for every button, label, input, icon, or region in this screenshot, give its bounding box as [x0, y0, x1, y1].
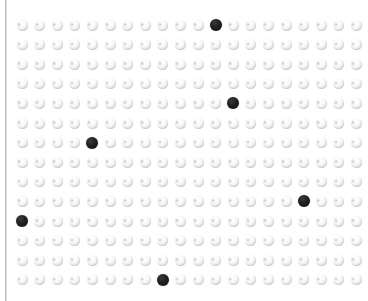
- light-dot-marker[interactable]: [228, 176, 239, 187]
- light-dot-marker[interactable]: [193, 274, 204, 285]
- light-dot-marker[interactable]: [122, 59, 133, 70]
- light-dot-marker[interactable]: [210, 157, 221, 168]
- light-dot-marker[interactable]: [228, 20, 239, 31]
- light-dot-marker[interactable]: [351, 39, 362, 50]
- light-dot-marker[interactable]: [245, 118, 256, 129]
- light-dot-marker[interactable]: [52, 157, 63, 168]
- light-dot-marker[interactable]: [17, 39, 28, 50]
- light-dot-marker[interactable]: [351, 274, 362, 285]
- light-dot-marker[interactable]: [69, 78, 80, 89]
- light-dot-marker[interactable]: [351, 176, 362, 187]
- light-dot-marker[interactable]: [175, 255, 186, 266]
- light-dot-marker[interactable]: [122, 137, 133, 148]
- light-dot-marker[interactable]: [228, 196, 239, 207]
- light-dot-marker[interactable]: [333, 59, 344, 70]
- light-dot-marker[interactable]: [298, 137, 309, 148]
- light-dot-marker[interactable]: [122, 118, 133, 129]
- light-dot-marker[interactable]: [263, 196, 274, 207]
- light-dot-marker[interactable]: [34, 216, 45, 227]
- light-dot-marker[interactable]: [333, 118, 344, 129]
- light-dot-marker[interactable]: [17, 235, 28, 246]
- light-dot-marker[interactable]: [193, 235, 204, 246]
- light-dot-marker[interactable]: [105, 39, 116, 50]
- light-dot-marker[interactable]: [316, 20, 327, 31]
- light-dot-marker[interactable]: [210, 78, 221, 89]
- light-dot-marker[interactable]: [175, 20, 186, 31]
- light-dot-marker[interactable]: [193, 78, 204, 89]
- light-dot-marker[interactable]: [17, 59, 28, 70]
- light-dot-marker[interactable]: [210, 216, 221, 227]
- light-dot-marker[interactable]: [52, 176, 63, 187]
- light-dot-marker[interactable]: [333, 216, 344, 227]
- light-dot-marker[interactable]: [175, 157, 186, 168]
- light-dot-marker[interactable]: [281, 59, 292, 70]
- light-dot-marker[interactable]: [316, 255, 327, 266]
- light-dot-marker[interactable]: [263, 235, 274, 246]
- light-dot-marker[interactable]: [228, 118, 239, 129]
- light-dot-marker[interactable]: [263, 98, 274, 109]
- light-dot-marker[interactable]: [87, 98, 98, 109]
- light-dot-marker[interactable]: [34, 157, 45, 168]
- light-dot-marker[interactable]: [69, 39, 80, 50]
- light-dot-marker[interactable]: [157, 216, 168, 227]
- light-dot-marker[interactable]: [17, 157, 28, 168]
- light-dot-marker[interactable]: [175, 98, 186, 109]
- light-dot-marker[interactable]: [333, 255, 344, 266]
- light-dot-marker[interactable]: [122, 196, 133, 207]
- light-dot-marker[interactable]: [245, 274, 256, 285]
- light-dot-marker[interactable]: [17, 98, 28, 109]
- light-dot-marker[interactable]: [17, 137, 28, 148]
- dark-dot-marker[interactable]: [210, 19, 222, 31]
- light-dot-marker[interactable]: [210, 196, 221, 207]
- light-dot-marker[interactable]: [316, 137, 327, 148]
- light-dot-marker[interactable]: [175, 196, 186, 207]
- light-dot-marker[interactable]: [87, 216, 98, 227]
- light-dot-marker[interactable]: [333, 20, 344, 31]
- light-dot-marker[interactable]: [175, 118, 186, 129]
- light-dot-marker[interactable]: [105, 137, 116, 148]
- light-dot-marker[interactable]: [157, 78, 168, 89]
- light-dot-marker[interactable]: [210, 59, 221, 70]
- dark-dot-marker[interactable]: [16, 215, 28, 227]
- light-dot-marker[interactable]: [52, 78, 63, 89]
- light-dot-marker[interactable]: [351, 59, 362, 70]
- light-dot-marker[interactable]: [34, 255, 45, 266]
- light-dot-marker[interactable]: [193, 39, 204, 50]
- light-dot-marker[interactable]: [122, 98, 133, 109]
- light-dot-marker[interactable]: [263, 78, 274, 89]
- light-dot-marker[interactable]: [351, 255, 362, 266]
- light-dot-marker[interactable]: [193, 157, 204, 168]
- light-dot-marker[interactable]: [281, 235, 292, 246]
- light-dot-marker[interactable]: [228, 78, 239, 89]
- light-dot-marker[interactable]: [298, 235, 309, 246]
- dark-dot-marker[interactable]: [86, 137, 98, 149]
- light-dot-marker[interactable]: [140, 196, 151, 207]
- light-dot-marker[interactable]: [122, 20, 133, 31]
- light-dot-marker[interactable]: [316, 235, 327, 246]
- light-dot-marker[interactable]: [281, 274, 292, 285]
- light-dot-marker[interactable]: [175, 59, 186, 70]
- light-dot-marker[interactable]: [316, 176, 327, 187]
- light-dot-marker[interactable]: [69, 274, 80, 285]
- light-dot-marker[interactable]: [69, 137, 80, 148]
- light-dot-marker[interactable]: [193, 216, 204, 227]
- light-dot-marker[interactable]: [105, 98, 116, 109]
- light-dot-marker[interactable]: [140, 20, 151, 31]
- light-dot-marker[interactable]: [34, 274, 45, 285]
- light-dot-marker[interactable]: [228, 137, 239, 148]
- light-dot-marker[interactable]: [351, 118, 362, 129]
- light-dot-marker[interactable]: [298, 176, 309, 187]
- light-dot-marker[interactable]: [52, 20, 63, 31]
- light-dot-marker[interactable]: [263, 255, 274, 266]
- light-dot-marker[interactable]: [52, 216, 63, 227]
- light-dot-marker[interactable]: [87, 118, 98, 129]
- light-dot-marker[interactable]: [105, 78, 116, 89]
- light-dot-marker[interactable]: [87, 235, 98, 246]
- light-dot-marker[interactable]: [87, 255, 98, 266]
- light-dot-marker[interactable]: [333, 235, 344, 246]
- light-dot-marker[interactable]: [52, 98, 63, 109]
- light-dot-marker[interactable]: [34, 20, 45, 31]
- light-dot-marker[interactable]: [69, 196, 80, 207]
- light-dot-marker[interactable]: [298, 255, 309, 266]
- light-dot-marker[interactable]: [316, 98, 327, 109]
